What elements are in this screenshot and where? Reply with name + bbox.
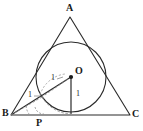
point-label-o: O xyxy=(75,66,83,76)
vertex-label-c: C xyxy=(132,109,139,119)
measure-label-radius-left: 1 xyxy=(51,74,55,82)
measure-label-radius-vertical: 1 xyxy=(76,90,80,98)
center-point-o-dot xyxy=(69,75,73,79)
geometry-canvas xyxy=(0,0,143,131)
point-label-p: P xyxy=(36,118,42,128)
vertex-label-b: B xyxy=(2,108,9,118)
angle-arc-at-p xyxy=(35,107,44,114)
dashed-segment-b-to-tangent xyxy=(11,97,42,115)
dashed-radius-left-tangent xyxy=(42,77,71,97)
leader-tick-radius-left xyxy=(57,77,63,79)
vertex-label-a: A xyxy=(66,3,73,13)
measure-label-radius-upper-left: 1 xyxy=(28,91,32,99)
angle-arc-at-b xyxy=(26,106,29,114)
geometry-figure: A B C O P 1 1 1 xyxy=(0,0,143,131)
